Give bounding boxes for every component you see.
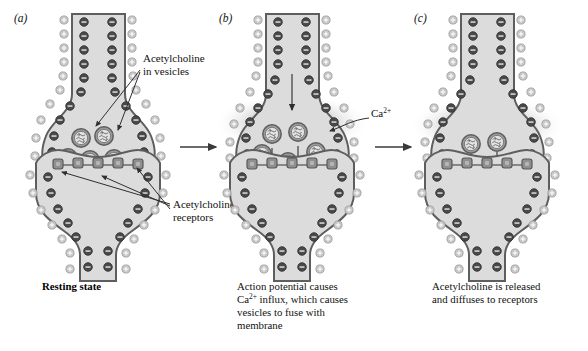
panel-c-caption: Acetylcholine is released and diffuses t… xyxy=(432,280,541,305)
panel-b-caption-calcium: Ca xyxy=(237,293,249,305)
callout-calcium-base: Ca xyxy=(371,107,383,119)
panel-c-caption-line-1: Acetylcholine is released xyxy=(432,280,541,292)
panel-b-caption-calcium-sup: 2+ xyxy=(249,292,257,301)
panel-b-caption-line-3: vesicles to fuse with xyxy=(237,306,325,318)
panel-a-letter: (a) xyxy=(14,12,28,25)
panel-b-caption-line-4: membrane xyxy=(237,319,283,331)
callout-acetylcholine-receptors-line1: Acetylcholine xyxy=(173,198,235,210)
panel-b-letter: (b) xyxy=(219,12,233,25)
callout-acetylcholine-in-vesicles-line2: in vesicles xyxy=(143,65,189,77)
callout-acetylcholine-in-vesicles-line1: Acetylcholine xyxy=(143,52,205,64)
callout-acetylcholine-receptors-line2: receptors xyxy=(173,211,213,223)
panel-b-caption-line-2-rest: influx, which causes xyxy=(257,293,348,305)
callout-calcium-superscript: 2+ xyxy=(383,106,391,115)
panel-c-letter: (c) xyxy=(414,12,427,25)
panel-a-caption: Resting state xyxy=(42,280,101,292)
synapse-figure: (a) xyxy=(0,0,588,351)
panel-b-caption-line-1: Action potential causes xyxy=(237,280,338,292)
panel-c-caption-line-2: and diffuses to receptors xyxy=(432,293,538,305)
